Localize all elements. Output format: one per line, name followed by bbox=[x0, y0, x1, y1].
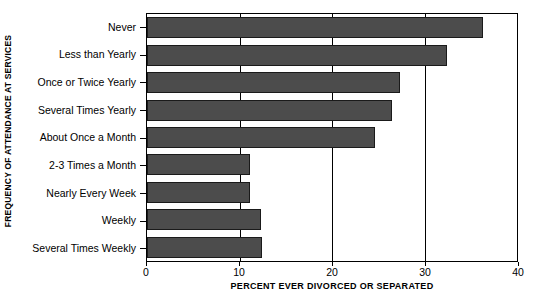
bar bbox=[147, 154, 250, 175]
category-label-row: Once or Twice Yearly bbox=[18, 68, 140, 96]
category-label-row: Several Times Yearly bbox=[18, 96, 140, 124]
category-label: 2-3 Times a Month bbox=[49, 160, 136, 171]
bar-row bbox=[147, 69, 517, 96]
bar-row bbox=[147, 151, 517, 178]
bar-row bbox=[147, 179, 517, 206]
category-label-row: Never bbox=[18, 13, 140, 41]
bar-row bbox=[147, 96, 517, 123]
category-label: Less than Yearly bbox=[59, 49, 136, 60]
category-label-row: About Once a Month bbox=[18, 124, 140, 152]
x-axis-tick-labels: 010203040 bbox=[146, 266, 518, 280]
bar-row bbox=[147, 206, 517, 233]
bar bbox=[147, 127, 375, 148]
category-label-row: Less than Yearly bbox=[18, 41, 140, 69]
category-label-row: Several Times Weekly bbox=[18, 234, 140, 262]
x-axis-title: PERCENT EVER DIVORCED OR SEPARATED bbox=[146, 281, 518, 291]
category-label: Several Times Weekly bbox=[32, 243, 136, 254]
x-axis-tick-label: 10 bbox=[233, 266, 245, 278]
bar-series bbox=[147, 14, 517, 261]
x-axis-tick-label: 0 bbox=[143, 266, 149, 278]
bar bbox=[147, 182, 250, 203]
category-label: Once or Twice Yearly bbox=[38, 77, 136, 88]
category-label: Never bbox=[108, 22, 136, 33]
x-axis-tick-label: 40 bbox=[512, 266, 524, 278]
bar bbox=[147, 237, 262, 258]
bar bbox=[147, 209, 261, 230]
plot-area bbox=[146, 13, 518, 262]
bar-row bbox=[147, 14, 517, 41]
category-label: About Once a Month bbox=[40, 132, 136, 143]
x-axis-tick-label: 30 bbox=[419, 266, 431, 278]
bar-row bbox=[147, 124, 517, 151]
bar bbox=[147, 100, 392, 121]
category-label-row: Weekly bbox=[18, 207, 140, 235]
category-label-list: Never Less than Yearly Once or Twice Yea… bbox=[18, 13, 140, 262]
category-label-row: 2-3 Times a Month bbox=[18, 151, 140, 179]
x-axis-tick-label: 20 bbox=[326, 266, 338, 278]
category-label: Nearly Every Week bbox=[46, 188, 136, 199]
category-label-row: Nearly Every Week bbox=[18, 179, 140, 207]
bar-row bbox=[147, 234, 517, 261]
bar bbox=[147, 45, 447, 66]
bar-row bbox=[147, 41, 517, 68]
category-label: Weekly bbox=[102, 215, 136, 226]
bar-chart: FREQUENCY OF ATTENDANCE AT SERVICES Neve… bbox=[0, 0, 541, 300]
category-label: Several Times Yearly bbox=[38, 105, 136, 116]
y-axis-title: FREQUENCY OF ATTENDANCE AT SERVICES bbox=[0, 0, 16, 262]
y-axis-title-text: FREQUENCY OF ATTENDANCE AT SERVICES bbox=[3, 35, 13, 227]
bar bbox=[147, 17, 483, 38]
bar bbox=[147, 72, 400, 93]
